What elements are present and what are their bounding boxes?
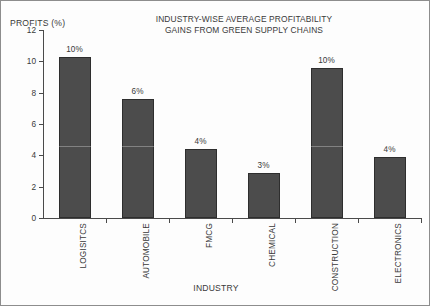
x-category-label: ELECTRONICS xyxy=(394,223,403,283)
x-tick-mark xyxy=(421,218,422,223)
y-tick-label: 10 xyxy=(27,56,36,66)
bar xyxy=(248,173,280,218)
x-axis-title: INDUSTRY xyxy=(1,283,430,293)
y-tick-mark xyxy=(39,30,44,31)
bar-value-label: 3% xyxy=(258,161,270,170)
y-axis-title: PROFITS (%) xyxy=(10,18,65,28)
y-tick-mark xyxy=(39,93,44,94)
x-category-label: AUTOMOBILE xyxy=(142,223,151,279)
y-tick-label: 0 xyxy=(31,213,36,223)
y-tick-label: 2 xyxy=(31,182,36,192)
y-tick-label: 8 xyxy=(31,88,36,98)
x-tick-mark xyxy=(169,218,170,223)
bar xyxy=(374,157,406,218)
bar-value-label: 6% xyxy=(132,87,144,96)
x-tick-mark xyxy=(106,218,107,223)
bar xyxy=(59,57,91,218)
bar xyxy=(122,99,154,218)
bar-value-label: 4% xyxy=(195,137,207,146)
bar-value-label: 4% xyxy=(384,145,396,154)
y-tick-mark xyxy=(39,61,44,62)
y-tick-label: 12 xyxy=(27,25,36,35)
bar-value-label: 10% xyxy=(318,56,334,65)
bar-value-label: 10% xyxy=(66,45,82,54)
y-tick-label: 6 xyxy=(31,119,36,129)
y-tick-mark xyxy=(39,218,44,219)
x-category-label: CHEMICAL xyxy=(268,223,277,267)
y-tick-label: 4 xyxy=(31,150,36,160)
x-tick-mark xyxy=(295,218,296,223)
x-tick-mark xyxy=(358,218,359,223)
bar xyxy=(185,149,217,218)
x-category-label: FMCG xyxy=(205,223,214,248)
chart-figure: INDUSTRY-WISE AVERAGE PROFITABILITY GAIN… xyxy=(0,0,430,306)
y-tick-mark xyxy=(39,155,44,156)
plot-area: 024681012 10%6%4%3%10%4% xyxy=(43,30,421,218)
x-category-label: LOGISITCS xyxy=(79,223,88,268)
y-tick-mark xyxy=(39,187,44,188)
y-tick-mark xyxy=(39,124,44,125)
x-category-label: CONSTRUCTION xyxy=(331,223,340,291)
x-tick-mark xyxy=(232,218,233,223)
bar xyxy=(311,68,343,218)
